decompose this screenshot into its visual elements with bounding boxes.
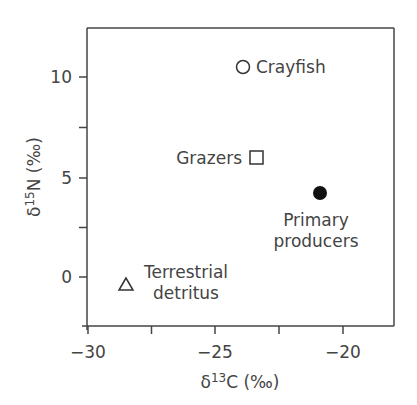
point-primary-producers: Primary producers bbox=[273, 186, 358, 251]
grazers-label: Grazers bbox=[176, 148, 242, 168]
xtick-label--20: −20 bbox=[325, 342, 361, 362]
terrestrial-detritus-label-line2: detritus bbox=[153, 283, 219, 303]
point-grazers: Grazers bbox=[176, 148, 263, 168]
primary-producers-label-line2: producers bbox=[273, 231, 358, 251]
x-ticks bbox=[88, 326, 343, 334]
xtick-label--25: −25 bbox=[197, 342, 233, 362]
scatter-chart: 10 5 0 −30 −25 −20 δ13C (‰) δ15N (‰) Cra… bbox=[0, 0, 417, 405]
crayfish-label: Crayfish bbox=[256, 57, 326, 77]
y-axis-title: δ15N (‰) bbox=[23, 137, 44, 217]
primary-producers-label-line1: Primary bbox=[283, 210, 349, 230]
terrestrial-detritus-label-line1: Terrestrial bbox=[143, 262, 228, 282]
open-triangle-marker-icon bbox=[119, 278, 133, 290]
point-terrestrial-detritus: Terrestrial detritus bbox=[119, 262, 228, 303]
ytick-label-10: 10 bbox=[50, 67, 72, 87]
ytick-label-0: 0 bbox=[61, 267, 72, 287]
open-square-marker-icon bbox=[250, 151, 263, 164]
y-ticks bbox=[79, 77, 87, 277]
xtick-label--30: −30 bbox=[70, 342, 106, 362]
plot-frame bbox=[82, 28, 394, 330]
ytick-label-5: 5 bbox=[61, 168, 72, 188]
point-crayfish: Crayfish bbox=[237, 57, 326, 77]
x-axis-title: δ13C (‰) bbox=[200, 371, 279, 392]
filled-circle-marker-icon bbox=[313, 186, 327, 200]
open-circle-marker-icon bbox=[237, 61, 250, 74]
